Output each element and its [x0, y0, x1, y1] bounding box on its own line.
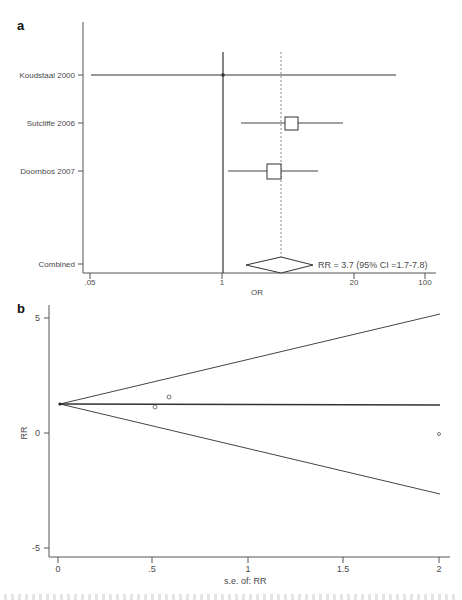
figure-canvas: a Koudstaal 2000 Sutcliffe 2006 Doornbos…	[0, 0, 462, 600]
study-point	[438, 433, 441, 436]
combined-label: Combined	[39, 260, 75, 269]
combined-diamond	[246, 257, 313, 273]
panel-b-y-ticks: 5 0 -5 RR	[19, 313, 49, 553]
effect-marker-box	[267, 164, 281, 179]
panel-b-x-ticks: 0 .5 1 1.5 2 s.e. of: RR	[55, 557, 441, 586]
study-row-sutcliffe	[241, 117, 343, 130]
panel-a-x-ticks: .05 1 20 100 OR	[84, 273, 432, 297]
x-tick-label: 100	[418, 278, 432, 287]
study-label-koudstaal: Koudstaal 2000	[19, 71, 75, 80]
pooled-estimate-line	[60, 404, 440, 405]
study-point	[167, 395, 171, 399]
combined-annotation: RR = 3.7 (95% CI =1.7-7.8)	[318, 260, 428, 270]
panel-a-x-axis-title: OR	[251, 288, 263, 297]
study-point	[153, 405, 157, 409]
panel-a-letter: a	[17, 18, 25, 33]
x-tick-label: .05	[84, 278, 96, 287]
panel-b-x-axis-title: s.e. of: RR	[224, 576, 267, 586]
x-tick-label: 1	[220, 278, 225, 287]
effect-marker	[222, 74, 225, 77]
funnel-upper-limit	[60, 314, 440, 404]
study-row-doornbos	[228, 164, 318, 179]
x-tick-label: 20	[350, 278, 359, 287]
figure-caption-truncated	[4, 594, 458, 600]
x-tick-label: .5	[148, 564, 156, 574]
panel-b-funnel-plot: b 5 0 -5 RR 0 .5 1 1.5 2 s.e. of: RR	[17, 301, 450, 586]
y-tick-label: 0	[35, 428, 40, 438]
y-tick-label: 5	[35, 313, 40, 323]
x-tick-label: 0	[55, 564, 60, 574]
study-row-koudstaal	[91, 74, 396, 77]
funnel-lower-limit	[60, 404, 440, 494]
study-label-sutcliffe: Sutcliffe 2006	[27, 119, 76, 128]
x-tick-label: 1.5	[337, 564, 350, 574]
x-tick-label: 1	[245, 564, 250, 574]
panel-a-forest-plot: a Koudstaal 2000 Sutcliffe 2006 Doornbos…	[17, 18, 436, 297]
panel-b-letter: b	[17, 301, 25, 316]
effect-marker-box	[285, 117, 298, 130]
study-label-doornbos: Doornbos 2007	[20, 167, 75, 176]
y-tick-label: -5	[32, 543, 40, 553]
panel-b-y-axis-title: RR	[19, 426, 29, 439]
x-tick-label: 2	[436, 564, 441, 574]
funnel-apex	[58, 402, 61, 405]
panel-a-y-labels: Koudstaal 2000 Sutcliffe 2006 Doornbos 2…	[19, 71, 83, 269]
